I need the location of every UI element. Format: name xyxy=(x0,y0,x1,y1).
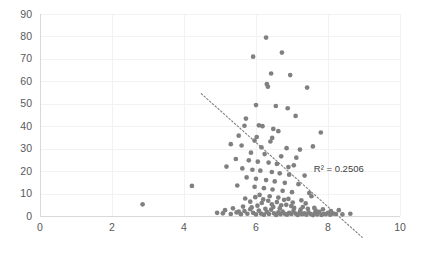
data-point xyxy=(285,106,290,111)
data-point xyxy=(266,160,271,165)
data-point xyxy=(255,159,260,164)
data-point xyxy=(254,103,259,108)
x-tick-label-2: 2 xyxy=(109,221,115,233)
data-point xyxy=(291,163,296,168)
x-tick-label-10: 10 xyxy=(394,221,406,233)
data-point xyxy=(284,146,289,151)
y-tick-label-70: 70 xyxy=(20,52,32,64)
data-point xyxy=(298,147,303,152)
data-point xyxy=(257,193,262,198)
data-point xyxy=(305,206,310,211)
data-point xyxy=(309,194,314,199)
data-point xyxy=(263,206,268,211)
data-point xyxy=(290,190,295,195)
x-tick-label-4: 4 xyxy=(181,221,187,233)
data-point xyxy=(299,198,304,203)
data-point xyxy=(311,144,316,149)
chart-axes xyxy=(40,14,400,217)
data-point xyxy=(140,202,145,207)
data-point xyxy=(236,209,241,214)
data-point xyxy=(294,155,299,160)
data-point xyxy=(340,212,345,217)
data-point xyxy=(270,187,275,192)
y-tick-label-60: 60 xyxy=(20,75,32,87)
y-tick-label-30: 30 xyxy=(20,142,32,154)
r-squared-label: R² = 0.2506 xyxy=(314,163,364,174)
chart-annotations: R² = 0.2506 xyxy=(314,163,364,174)
data-point xyxy=(253,195,258,200)
data-point xyxy=(272,179,277,184)
data-point xyxy=(267,212,272,217)
data-point xyxy=(249,205,254,210)
y-axis-tick-labels: 0102030405060708090 xyxy=(20,8,32,222)
data-point xyxy=(190,184,195,189)
data-point xyxy=(228,142,233,147)
data-point xyxy=(254,212,259,217)
data-point xyxy=(273,104,278,109)
data-point xyxy=(233,157,238,162)
data-point xyxy=(261,197,266,202)
data-point xyxy=(266,84,271,89)
data-point xyxy=(264,35,269,40)
data-point xyxy=(336,208,341,213)
data-point xyxy=(277,206,282,211)
data-point xyxy=(246,158,251,163)
data-point xyxy=(286,197,291,202)
data-point xyxy=(235,183,240,188)
data-point xyxy=(276,195,281,200)
x-tick-label-6: 6 xyxy=(253,221,259,233)
data-point xyxy=(290,200,295,205)
data-point xyxy=(244,116,249,121)
data-point xyxy=(239,143,244,148)
data-point xyxy=(282,180,287,185)
data-point xyxy=(279,154,284,159)
data-point xyxy=(303,201,308,206)
data-point xyxy=(231,206,236,211)
data-point xyxy=(348,211,353,216)
data-point xyxy=(244,175,249,180)
data-point xyxy=(321,207,326,212)
data-point xyxy=(215,211,220,216)
data-point xyxy=(318,130,323,135)
data-point xyxy=(264,178,269,183)
data-point xyxy=(269,71,274,76)
data-point xyxy=(268,139,273,144)
data-point xyxy=(305,85,310,90)
data-point xyxy=(260,124,265,129)
data-point xyxy=(255,203,260,208)
y-tick-label-40: 40 xyxy=(20,120,32,132)
data-point xyxy=(271,127,276,132)
data-point xyxy=(288,73,293,78)
data-point xyxy=(258,168,263,173)
y-tick-label-20: 20 xyxy=(20,165,32,177)
data-point xyxy=(277,171,282,176)
data-point xyxy=(280,189,285,194)
data-point xyxy=(276,129,281,134)
data-point xyxy=(250,167,255,172)
y-tick-label-0: 0 xyxy=(26,210,32,222)
data-point xyxy=(236,133,241,138)
data-point xyxy=(224,164,229,169)
data-point xyxy=(262,186,267,191)
data-point xyxy=(267,194,272,199)
scatter-chart: 0102030405060708090 0246810 R² = 0.2506 xyxy=(0,0,424,275)
data-point xyxy=(249,150,254,155)
data-point xyxy=(242,123,247,128)
data-point xyxy=(254,176,259,181)
data-point xyxy=(293,114,298,119)
data-point xyxy=(282,197,287,202)
data-point xyxy=(292,206,297,211)
data-point xyxy=(228,212,233,217)
x-tick-label-8: 8 xyxy=(325,221,331,233)
data-point xyxy=(243,196,248,201)
data-point xyxy=(245,211,250,216)
data-point xyxy=(266,198,271,203)
data-point xyxy=(240,166,245,171)
x-tick-label-0: 0 xyxy=(37,221,43,233)
data-point xyxy=(252,184,257,189)
data-point xyxy=(286,165,291,170)
data-point xyxy=(269,170,274,175)
y-tick-label-80: 80 xyxy=(20,30,32,42)
data-point xyxy=(271,205,276,210)
data-point xyxy=(241,204,246,209)
